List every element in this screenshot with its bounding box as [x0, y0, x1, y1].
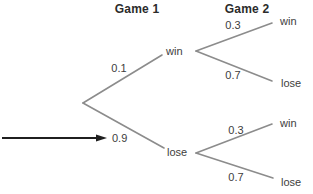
game1-header: Game 1: [115, 2, 160, 16]
game2-after-win-win-node-label: win: [279, 15, 297, 27]
entry-arrow: [2, 134, 107, 141]
game2-after-win-lose-node-label: lose: [281, 77, 301, 89]
diagram-canvas: Game 1 Game 2 0.1 win 0.9 lose 0.3 win 0…: [0, 0, 313, 194]
game2-after-win-lose-probability: 0.7: [225, 69, 240, 81]
game2-header: Game 2: [225, 2, 270, 16]
game2-after-lose-lose-node-label: lose: [281, 176, 301, 188]
game1-win-probability: 0.1: [111, 62, 126, 74]
game1-lose-node-label: lose: [167, 146, 187, 158]
game1-lose-probability: 0.9: [112, 132, 127, 144]
probability-tree-diagram: Game 1 Game 2 0.1 win 0.9 lose 0.3 win 0…: [0, 0, 313, 194]
game2-after-win-win-probability: 0.3: [225, 19, 240, 31]
game2-after-lose-win-node-label: win: [279, 117, 297, 129]
game1-win-node-label: win: [165, 45, 183, 57]
game2-after-lose-lose-probability: 0.7: [228, 171, 243, 183]
arrow-head-icon: [96, 134, 107, 141]
game2-after-lose-win-probability: 0.3: [228, 124, 243, 136]
